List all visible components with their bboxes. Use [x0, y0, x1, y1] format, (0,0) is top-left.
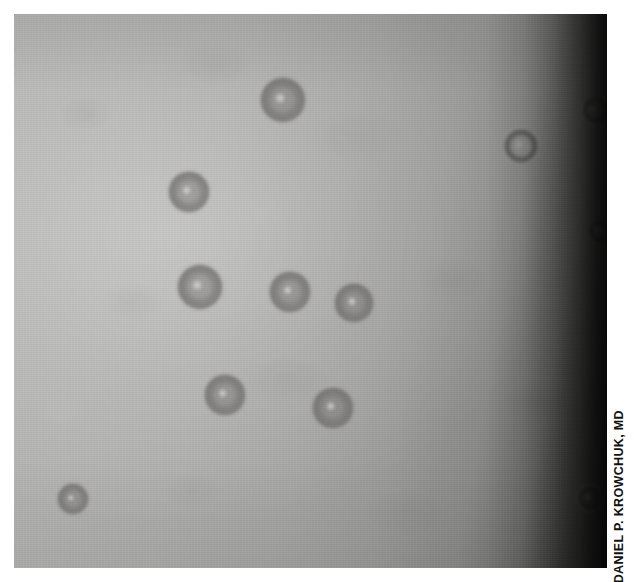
- clinical-photograph: [14, 14, 607, 568]
- clinical-figure: AAP, COURTESY OF DANIEL P. KROWCHUK, MD: [0, 0, 634, 582]
- photo-credit: AAP, COURTESY OF DANIEL P. KROWCHUK, MD: [608, 14, 630, 568]
- photo-credit-text: AAP, COURTESY OF DANIEL P. KROWCHUK, MD: [613, 410, 626, 582]
- edge-shadow-layer: [487, 14, 607, 568]
